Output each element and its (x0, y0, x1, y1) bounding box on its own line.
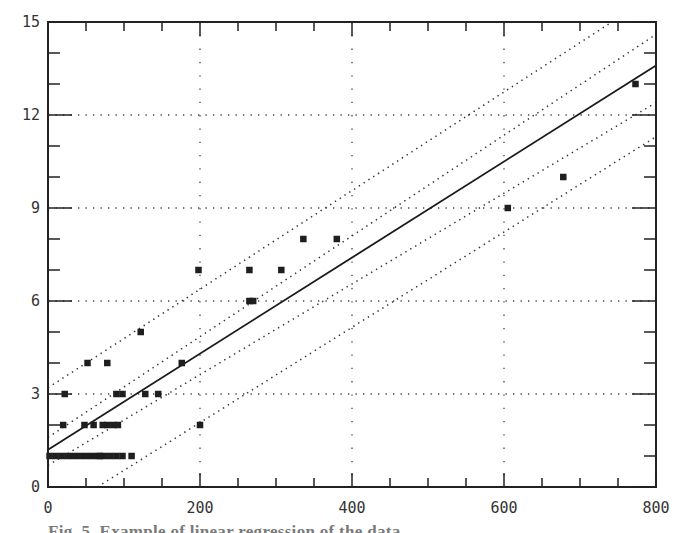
data-point (250, 298, 257, 305)
data-point (197, 422, 204, 429)
inner-lower-band-line (48, 103, 656, 466)
x-tick-label: 600 (490, 499, 517, 517)
data-point (195, 267, 202, 274)
data-point (119, 391, 126, 398)
y-tick-label: 0 (31, 478, 40, 496)
data-point (278, 267, 285, 274)
data-point (155, 391, 162, 398)
regression-line (48, 65, 656, 449)
data-point (119, 453, 126, 460)
data-point (107, 453, 114, 460)
x-tick-label: 800 (642, 499, 669, 517)
data-point (560, 174, 567, 181)
data-point (81, 422, 88, 429)
axes (48, 22, 656, 487)
data-point (60, 422, 66, 429)
grid-lines (48, 22, 656, 487)
data-point (90, 422, 97, 429)
data-point (246, 267, 253, 274)
data-point (115, 422, 122, 429)
data-point (104, 360, 111, 367)
plot-frame (48, 22, 656, 487)
data-point (113, 391, 120, 398)
x-tick-label: 200 (186, 499, 213, 517)
data-point (96, 453, 103, 460)
x-tick-label: 400 (338, 499, 365, 517)
data-point (300, 236, 307, 243)
data-point (71, 453, 78, 460)
data-point (632, 81, 639, 88)
data-point (65, 453, 72, 460)
y-tick-label: 15 (22, 13, 40, 31)
y-tick-label: 3 (31, 385, 40, 403)
data-point (179, 360, 186, 367)
data-point (334, 236, 341, 243)
data-points (46, 81, 638, 460)
y-tick-label: 6 (31, 292, 40, 310)
outer-lower-band-line (97, 137, 656, 487)
data-point (104, 422, 111, 429)
data-point (84, 360, 91, 367)
data-point (505, 205, 512, 212)
data-point (137, 329, 144, 336)
tick-labels: 020040060080003691215 (22, 13, 670, 517)
scatter-chart: 020040060080003691215 (0, 0, 684, 533)
regression-bands (48, 22, 656, 487)
data-point (89, 453, 96, 460)
outer-upper-band-line (48, 22, 612, 388)
data-point (128, 453, 135, 460)
x-tick-label: 0 (43, 499, 52, 517)
data-point (142, 391, 149, 398)
y-tick-label: 12 (22, 106, 40, 124)
y-tick-label: 9 (31, 199, 40, 217)
data-point (113, 453, 120, 460)
data-point (83, 453, 90, 460)
figure-caption: Fig. 5. Example of linear regression of … (48, 521, 401, 533)
data-point (77, 453, 84, 460)
